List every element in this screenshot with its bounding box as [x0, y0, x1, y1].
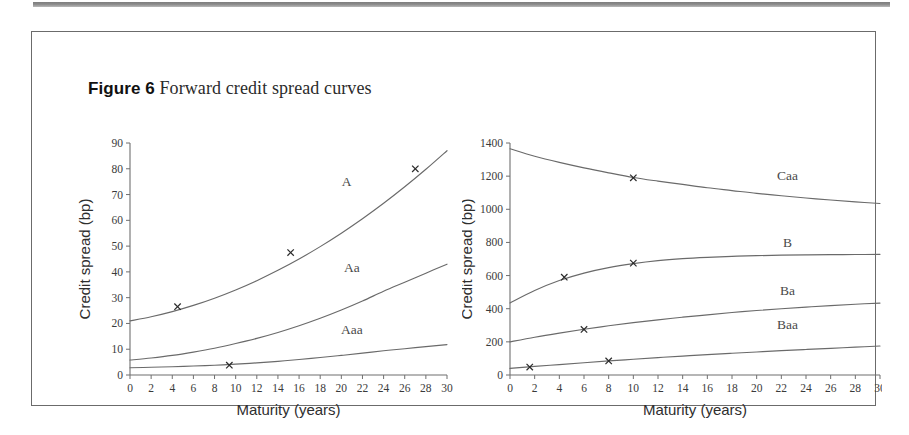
x-tick-label: 8	[606, 382, 612, 394]
data-marker-a	[412, 166, 418, 172]
curve-label-aa: Aa	[344, 260, 360, 275]
y-tick-label: 400	[486, 303, 504, 315]
curve-label-b: B	[783, 235, 792, 250]
curve-label-baa: Baa	[777, 317, 798, 332]
x-tick-label: 0	[507, 382, 513, 394]
y-tick-label: 80	[112, 163, 124, 175]
chart-investment-grade: 0102030405060708090024681012141618202224…	[72, 118, 492, 418]
x-tick-label: 12	[652, 382, 664, 394]
x-axis-title: Maturity (years)	[643, 401, 747, 418]
x-tick-label: 2	[148, 382, 154, 394]
x-tick-label: 14	[677, 382, 689, 394]
x-tick-label: 16	[702, 382, 714, 394]
x-tick-label: 16	[293, 382, 305, 394]
x-tick-label: 0	[127, 382, 133, 394]
x-tick-label: 22	[776, 382, 788, 394]
x-tick-label: 30	[441, 382, 453, 394]
y-tick-label: 0	[497, 369, 503, 381]
x-tick-label: 6	[581, 382, 587, 394]
x-tick-label: 20	[336, 382, 348, 394]
y-tick-label: 60	[112, 214, 124, 226]
curve-baa	[510, 346, 880, 368]
x-tick-label: 6	[191, 382, 197, 394]
y-tick-label: 1200	[480, 170, 503, 182]
data-marker-a	[174, 303, 180, 309]
x-tick-label: 10	[628, 382, 640, 394]
curve-ba	[510, 303, 880, 342]
x-tick-label: 8	[212, 382, 218, 394]
x-tick-label: 30	[874, 382, 882, 394]
x-tick-label: 14	[272, 382, 284, 394]
x-tick-label: 4	[169, 382, 175, 394]
y-tick-label: 600	[486, 270, 504, 282]
figure-page: Figure 6 Forward credit spread curves 01…	[0, 0, 909, 435]
page-top-rule	[33, 2, 890, 7]
y-tick-label: 0	[117, 369, 123, 381]
y-tick-label: 90	[112, 137, 124, 149]
y-tick-label: 50	[112, 240, 124, 252]
chart-speculative-grade: 0200400600800100012001400024681012141618…	[462, 118, 882, 418]
x-tick-label: 4	[556, 382, 562, 394]
y-tick-label: 800	[486, 236, 504, 248]
x-tick-label: 26	[399, 382, 411, 394]
curve-aa	[130, 264, 447, 360]
figure-caption: Figure 6 Forward credit spread curves	[88, 78, 372, 99]
data-marker-aaa	[226, 362, 232, 368]
x-tick-label: 28	[420, 382, 432, 394]
y-axis-title: Credit spread (bp)	[462, 199, 475, 320]
x-tick-label: 10	[230, 382, 242, 394]
x-tick-label: 2	[532, 382, 538, 394]
curve-label-aaa: Aaa	[341, 322, 363, 337]
y-tick-label: 200	[486, 336, 504, 348]
x-tick-label: 18	[314, 382, 326, 394]
x-tick-label: 26	[825, 382, 837, 394]
x-tick-label: 12	[251, 382, 263, 394]
y-tick-label: 1400	[480, 137, 503, 149]
x-tick-label: 24	[378, 382, 390, 394]
x-axis-title: Maturity (years)	[236, 401, 340, 418]
curve-caa	[510, 149, 880, 204]
x-tick-label: 18	[726, 382, 738, 394]
x-tick-label: 20	[751, 382, 763, 394]
figure-frame: Figure 6 Forward credit spread curves 01…	[31, 31, 876, 406]
y-tick-label: 1000	[480, 203, 503, 215]
x-tick-label: 24	[800, 382, 812, 394]
y-tick-label: 70	[112, 189, 124, 201]
y-tick-label: 30	[112, 292, 124, 304]
curve-label-a: A	[342, 174, 352, 189]
chart-canvas: 0102030405060708090024681012141618202224…	[72, 118, 492, 418]
x-tick-label: 28	[850, 382, 862, 394]
curve-label-caa: Caa	[777, 168, 798, 183]
chart-canvas: 0200400600800100012001400024681012141618…	[462, 118, 882, 418]
curve-aaa	[130, 345, 447, 368]
y-tick-label: 20	[112, 317, 124, 329]
x-tick-label: 22	[357, 382, 369, 394]
curve-label-ba: Ba	[780, 283, 795, 298]
y-tick-label: 40	[112, 266, 124, 278]
y-tick-label: 10	[112, 343, 124, 355]
curve-a	[130, 151, 447, 321]
y-axis-title: Credit spread (bp)	[76, 199, 93, 320]
figure-number: Figure 6	[88, 79, 155, 98]
data-marker-b	[561, 274, 567, 280]
data-marker-a	[287, 249, 293, 255]
figure-title: Forward credit spread curves	[159, 78, 371, 98]
